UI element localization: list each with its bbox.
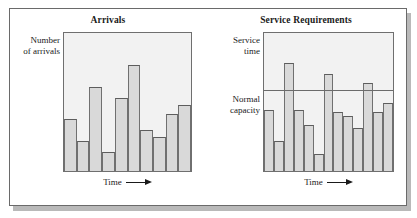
x-axis-label-arrivals: Time xyxy=(103,177,122,187)
bar xyxy=(128,65,141,171)
bar xyxy=(324,74,334,171)
x-axis-arrivals: Time xyxy=(63,177,192,187)
panels-container: Arrivals Number of arrivals Time Service… xyxy=(10,9,406,205)
right-arrow-icon xyxy=(126,179,152,186)
y-axis-label-arrivals: Number of arrivals xyxy=(12,35,60,57)
figure-frame: Arrivals Number of arrivals Time Service… xyxy=(9,8,407,206)
x-axis-service-requirements: Time xyxy=(263,177,394,187)
bar xyxy=(274,141,284,171)
right-arrow-icon xyxy=(327,179,353,186)
bar xyxy=(140,130,153,171)
bar xyxy=(115,98,128,171)
bar xyxy=(153,137,166,172)
figure-root: Arrivals Number of arrivals Time Service… xyxy=(0,0,417,218)
panel-arrivals: Arrivals Number of arrivals Time xyxy=(10,9,206,205)
normal-capacity-line xyxy=(264,90,393,91)
bar xyxy=(383,103,393,171)
bar xyxy=(304,125,314,171)
plot-area-service-requirements xyxy=(263,32,394,172)
bar xyxy=(343,116,353,171)
bar xyxy=(166,114,179,171)
bar xyxy=(178,105,191,171)
bar xyxy=(264,110,274,171)
normal-capacity-label: Normal capacity xyxy=(206,94,260,116)
y-axis-label-service-time: Service time xyxy=(210,35,260,57)
bar xyxy=(333,112,343,171)
bar xyxy=(77,141,90,171)
bar xyxy=(353,128,363,171)
bar xyxy=(314,154,324,171)
bar xyxy=(64,119,77,171)
x-axis-label-service-requirements: Time xyxy=(304,177,323,187)
bar xyxy=(363,83,373,171)
bar xyxy=(89,87,102,171)
bar xyxy=(373,112,383,171)
plot-area-arrivals xyxy=(63,32,192,172)
bar xyxy=(102,152,115,171)
panel-service-requirements: Service Requirements Service time Normal… xyxy=(206,9,406,205)
bar-series-arrivals xyxy=(64,33,191,171)
panel-title-service-requirements: Service Requirements xyxy=(206,15,406,25)
bar-series-service-requirements xyxy=(264,33,393,171)
bar xyxy=(284,63,294,171)
bar xyxy=(294,110,304,171)
panel-title-arrivals: Arrivals xyxy=(10,15,206,25)
